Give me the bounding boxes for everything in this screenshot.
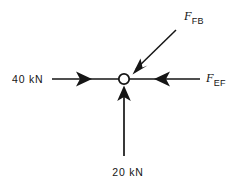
force-vector-right: FEF [129,71,226,88]
force-diagram-canvas: 40 kN FEF 20 kN FFB [0,0,243,186]
force-diagonal-symbol-text: F [183,9,192,23]
force-diagonal-subscript: FB [192,16,204,26]
force-vector-bottom: 20 kN [112,86,143,179]
force-right-subscript: EF [214,78,226,88]
force-diagram-figure: 40 kN FEF 20 kN FFB [0,0,243,186]
force-vector-diagonal: FFB [133,9,204,75]
force-right-symbol-text: F [205,71,214,85]
force-vector-left: 40 kN [12,72,120,87]
force-diagonal-shaft [136,30,176,69]
force-left-label: 40 kN [12,73,43,85]
force-diagonal-symbol: FFB [183,9,204,26]
force-bottom-label: 20 kN [112,166,143,178]
joint-node-icon [119,74,129,84]
force-right-symbol: FEF [205,71,226,88]
